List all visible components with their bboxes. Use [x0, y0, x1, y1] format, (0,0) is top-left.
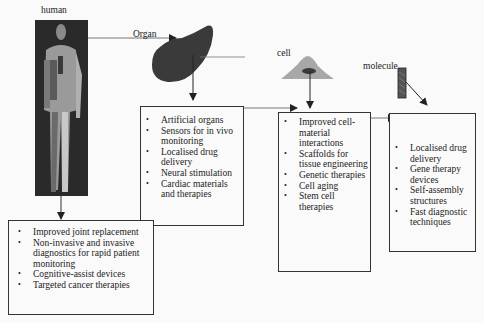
list-item: Localised drug delivery: [141, 147, 243, 168]
cell-label: cell: [277, 48, 291, 58]
list-item: Improved joint replacement: [13, 227, 153, 238]
molecule-label: molecule: [363, 61, 398, 71]
list-item: Cognitive-assist devices: [13, 269, 153, 280]
organ-shape: [152, 26, 213, 82]
list-item: Gene therapy devices: [390, 164, 475, 185]
list-item: Fast diagnostic techniques: [390, 207, 475, 228]
organ-applications-box: Artificial organs Sensors for in vivo mo…: [140, 106, 244, 226]
human-body-image: [35, 20, 88, 196]
list-item: Genetic therapies: [279, 170, 370, 181]
list-item: Non-invasive and invasive diagnostics fo…: [13, 238, 153, 270]
nucleus-shape: [302, 68, 316, 74]
human-label: human: [41, 5, 67, 15]
list-item: Localised drug delivery: [390, 143, 475, 164]
human-applications-box: Improved joint replacement Non-invasive …: [8, 220, 154, 315]
cell-applications-box: Improved cell-material interactions Scaf…: [278, 112, 371, 272]
list-item: Self-assembly structures: [390, 185, 475, 206]
list-item: Cardiac materials and therapies: [141, 179, 243, 200]
list-item: Artificial organs: [141, 115, 243, 126]
list-item: Improved cell-material interactions: [279, 117, 370, 149]
molecule-applications-box: Localised drug delivery Gene therapy dev…: [389, 113, 476, 252]
list-item: Stem cell therapies: [279, 191, 370, 212]
list-item: Sensors for in vivo monitoring: [141, 126, 243, 147]
list-item: Cell aging: [279, 181, 370, 192]
cell-shape: [281, 56, 334, 79]
list-item: Neural stimulation: [141, 168, 243, 179]
organ-label: Organ: [133, 29, 157, 39]
molecule-shape: [398, 68, 406, 98]
list-item: Targeted cancer therapies: [13, 280, 153, 291]
list-item: Scaffolds for tissue engineering: [279, 149, 370, 170]
